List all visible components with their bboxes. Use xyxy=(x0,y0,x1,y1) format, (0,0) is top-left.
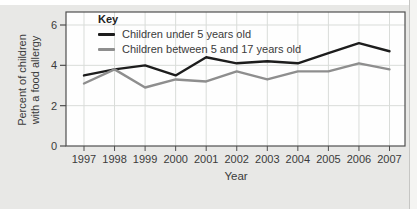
y-axis-title-line1: Percent of children xyxy=(16,34,29,126)
y-axis-title: Percent of children with a food allergy xyxy=(16,34,42,126)
x-tick-label: 2002 xyxy=(225,153,249,165)
legend-swatch-black-line xyxy=(98,33,115,36)
page-edge-line xyxy=(409,0,410,209)
y-tick-label: 2 xyxy=(51,100,57,112)
y-axis-title-line2: with a food allergy xyxy=(29,34,42,126)
x-tick-label: 1997 xyxy=(72,153,96,165)
page-right-margin xyxy=(410,0,417,209)
legend-title: Key xyxy=(98,13,301,25)
x-axis-title: Year xyxy=(176,170,296,182)
y-tick-label: 0 xyxy=(51,140,57,152)
x-tick-label: 2007 xyxy=(377,153,401,165)
x-tick-label: 2005 xyxy=(316,153,340,165)
x-tick-label: 2000 xyxy=(163,153,187,165)
x-tick-label: 2004 xyxy=(286,153,310,165)
legend-label: Children under 5 years old xyxy=(122,28,251,40)
legend-swatch-gray-line xyxy=(98,48,115,51)
legend-label: Children between 5 and 17 years old xyxy=(122,43,301,55)
x-tick-label: 2001 xyxy=(194,153,218,165)
legend: Key Children under 5 years old Children … xyxy=(98,13,301,55)
y-tick-label: 4 xyxy=(51,59,57,71)
x-tick-label: 1999 xyxy=(133,153,157,165)
chart-panel: 1997199819992000200120022003200420052006… xyxy=(0,0,417,209)
x-tick-label: 1998 xyxy=(102,153,126,165)
x-tick-label: 2006 xyxy=(347,153,371,165)
y-tick-label: 6 xyxy=(51,19,57,31)
x-tick-label: 2003 xyxy=(255,153,279,165)
legend-item-5-to-17: Children between 5 and 17 years old xyxy=(98,43,301,55)
legend-item-under-5: Children under 5 years old xyxy=(98,28,301,40)
